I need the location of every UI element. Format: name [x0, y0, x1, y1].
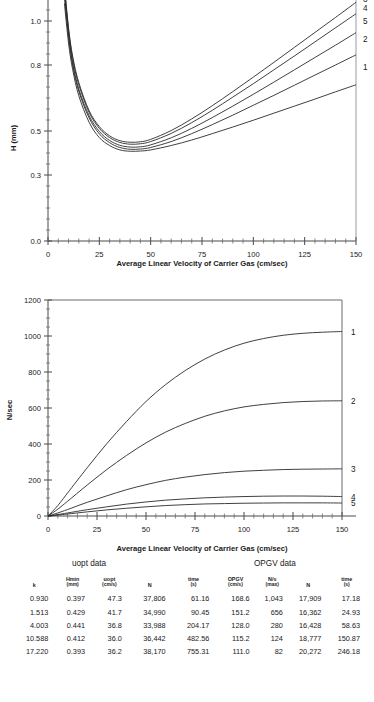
chart1-curve-label-2: 2: [363, 35, 368, 44]
chart2-curve-label-2: 2: [351, 397, 356, 406]
table-cell: 36.8: [91, 619, 128, 632]
table-cell: 18,777: [289, 632, 328, 645]
table-cell: 280: [256, 619, 289, 632]
chart2-y-tick-label: 200: [28, 476, 41, 485]
table-row: 1.5130.42941.734,99090.45151.265616,3622…: [14, 605, 366, 618]
table-cell: 204.17: [172, 619, 216, 632]
chart1-y-tick-label: 1.0: [30, 17, 41, 26]
table-cell: 16,428: [289, 619, 328, 632]
table-group-titles: uopt data OPGV data: [0, 556, 374, 576]
chart2-y-axis-title: N/sec: [5, 400, 14, 420]
chart2-y-tick-label: 1000: [24, 332, 41, 341]
chart2-x-tick-label: 100: [238, 525, 251, 534]
chart1-y-ticks: 0.00.30.50.81.0: [30, 0, 52, 246]
chart2-curve-label-1: 1: [351, 328, 356, 337]
table-cell: 755.31: [172, 645, 216, 658]
table-cell: 17.18: [327, 592, 366, 605]
table-cell: 16,362: [289, 605, 328, 618]
chart2-x-tick-label: 75: [191, 525, 199, 534]
table-cell: 90.45: [172, 605, 216, 618]
table-cell: 10.588: [14, 632, 54, 645]
table-cell: 36.0: [91, 632, 128, 645]
table-header-3: N: [128, 576, 172, 592]
chart-plates-per-second: 020040060080010001200 0255075100125150 1…: [0, 292, 374, 562]
table-cell: 1.513: [14, 605, 54, 618]
chart1-curve-3: [64, 0, 356, 142]
table-body: 0.9300.39747.337,80661.16168.61,04317,90…: [14, 592, 366, 658]
table-cell: 111.0: [215, 645, 255, 658]
chart1-curve-label-4: 4: [363, 4, 368, 13]
table-cell: 168.6: [215, 592, 255, 605]
chart2-x-tick-label: 0: [46, 525, 50, 534]
chart1-x-tick-label: 125: [298, 250, 311, 259]
table-cell: 0.412: [54, 632, 91, 645]
table-header-row: kHmin(mm)uopt(cm/s)Ntime(s)OPGV(cm/s)N/s…: [14, 576, 366, 592]
table-cell: 17,909: [289, 592, 328, 605]
table-cell: 0.397: [54, 592, 91, 605]
table-cell: 246.18: [327, 645, 366, 658]
table-cell: 34,990: [128, 605, 172, 618]
table-cell: 41.7: [91, 605, 128, 618]
chart2-x-tick-label: 50: [142, 525, 150, 534]
chart2-x-tick-label: 125: [287, 525, 300, 534]
table-cell: 17.220: [14, 645, 54, 658]
chart1-curve-2: [64, 0, 356, 149]
chart2-x-ticks: 0255075100125150: [46, 512, 348, 534]
table-header-7: N: [289, 576, 328, 592]
table-header-1: Hmin(mm): [54, 576, 91, 592]
chart1-x-tick-label: 50: [146, 250, 154, 259]
chart1-x-tick-label: 25: [95, 250, 103, 259]
figure-container: 0.00.30.50.81.0 0255075100125150 12543 H…: [0, 0, 374, 702]
table-cell: 61.16: [172, 592, 216, 605]
table-header-0: k: [14, 576, 54, 592]
table-row: 0.9300.39747.337,80661.16168.61,04317,90…: [14, 592, 366, 605]
table-cell: 0.930: [14, 592, 54, 605]
table-cell: 33,988: [128, 619, 172, 632]
chart1-curve-1: [64, 3, 356, 151]
chart1-x-tick-label: 100: [247, 250, 260, 259]
table-cell: 128.0: [215, 619, 255, 632]
table-row: 4.0030.44136.833,988204.17128.028016,428…: [14, 619, 366, 632]
chart2-curve-label-5: 5: [351, 499, 356, 508]
table-cell: 1,043: [256, 592, 289, 605]
chart2-y-tick-label: 600: [28, 404, 41, 413]
table-cell: 36.2: [91, 645, 128, 658]
chart2-curve-label-3: 3: [351, 465, 356, 474]
table-cell: 124: [256, 632, 289, 645]
chart1-x-tick-label: 0: [46, 250, 50, 259]
table-cell: 82: [256, 645, 289, 658]
table-cell: 4.003: [14, 619, 54, 632]
chart1-y-tick-label: 0.3: [30, 171, 41, 180]
table-cell: 47.3: [91, 592, 128, 605]
results-table: kHmin(mm)uopt(cm/s)Ntime(s)OPGV(cm/s)N/s…: [14, 576, 366, 658]
table-cell: 38,170: [128, 645, 172, 658]
chart-van-deemter: 0.00.30.50.81.0 0255075100125150 12543 H…: [0, 0, 374, 270]
table-cell: 482.56: [172, 632, 216, 645]
chart1-y-tick-label: 0.8: [30, 61, 41, 70]
table-cell: 0.393: [54, 645, 91, 658]
chart1-curve-label-1: 1: [363, 63, 368, 72]
chart1-x-ticks: 0255075100125150: [46, 237, 362, 259]
data-table-section: uopt data OPGV data kHmin(mm)uopt(cm/s)N…: [0, 556, 374, 702]
chart2-curves: [48, 332, 342, 517]
table-header-4: time(s): [172, 576, 216, 592]
table-header-6: N/s(max): [256, 576, 289, 592]
group-title-opgv: OPGV data: [254, 559, 296, 568]
table-cell: 37,806: [128, 592, 172, 605]
chart1-x-axis-title: Average Linear Velocity of Carrier Gas (…: [116, 259, 288, 268]
table-row: 10.5880.41236.036,442482.56115.212418,77…: [14, 632, 366, 645]
table-cell: 0.441: [54, 619, 91, 632]
chart2-curve-labels: 12345: [351, 328, 356, 509]
chart2-curve-1: [48, 332, 342, 517]
chart1-curve-label-5: 5: [363, 17, 368, 26]
chart1-curve-labels: 12543: [363, 0, 368, 72]
chart1-x-tick-label: 75: [198, 250, 206, 259]
table-cell: 150.87: [327, 632, 366, 645]
table-cell: 656: [256, 605, 289, 618]
group-title-uopt: uopt data: [72, 559, 106, 568]
table-cell: 36,442: [128, 632, 172, 645]
table-header-2: uopt(cm/s): [91, 576, 128, 592]
table-header-5: OPGV(cm/s): [215, 576, 255, 592]
chart1-curve-label-3: 3: [363, 0, 368, 4]
chart1-y-tick-label: 0.0: [30, 237, 41, 246]
